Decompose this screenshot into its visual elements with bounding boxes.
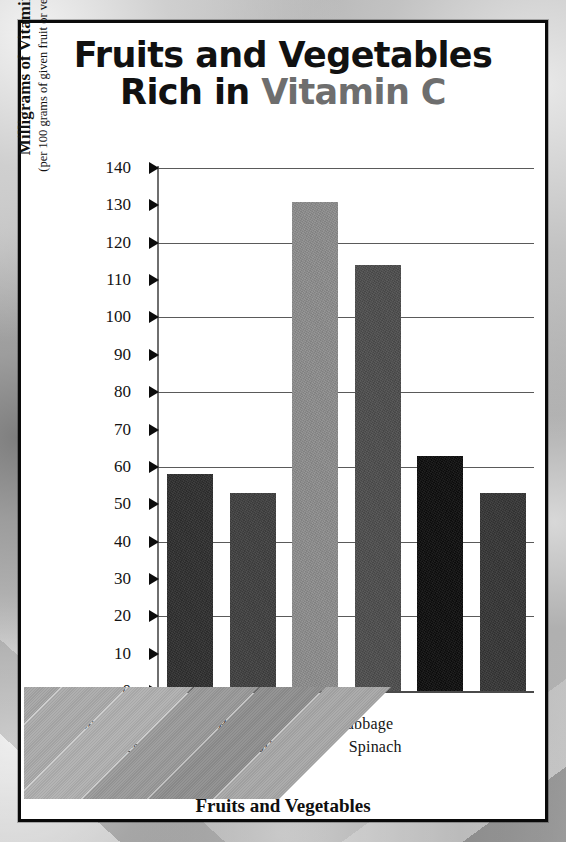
y-tick-arrow-icon	[149, 386, 159, 398]
chart-area: Milligrams of Vitamin C (per 100 grams o…	[21, 23, 545, 819]
plot-region: 1401301201101009080706050403020100	[139, 166, 534, 693]
y-tick-arrow-icon	[149, 573, 159, 585]
bar-fill	[417, 456, 463, 691]
y-tick-label: 80	[114, 382, 131, 402]
y-tick-label: 90	[114, 345, 131, 365]
y-tick-arrow-icon	[149, 424, 159, 436]
bar-fill	[230, 493, 276, 691]
bar-broccoli[interactable]	[355, 265, 401, 691]
y-axis-title: Milligrams of Vitamin C (per 100 grams o…	[15, 0, 51, 245]
y-axis-title-sub: (per 100 grams of given fruit or vegetab…	[36, 0, 51, 245]
bar-fill	[167, 474, 213, 691]
y-tick-arrow-icon	[149, 536, 159, 548]
y-tick-label: 40	[114, 532, 131, 552]
y-tick-arrow-icon	[149, 461, 159, 473]
y-tick-label: 50	[114, 494, 131, 514]
y-tick-arrow-icon	[149, 162, 159, 174]
y-tick-label: 30	[114, 569, 131, 589]
bar-fill	[480, 493, 526, 691]
y-tick-arrow-icon	[149, 274, 159, 286]
y-tick-label: 70	[114, 420, 131, 440]
bar-spinach[interactable]	[480, 493, 526, 691]
y-tick-arrow-icon	[149, 199, 159, 211]
chart-card: Fruits and Vegetables Rich in Vitamin C …	[18, 20, 548, 822]
y-tick-arrow-icon	[149, 349, 159, 361]
y-tick-label: 100	[106, 307, 132, 327]
y-tick-arrow-icon	[149, 610, 159, 622]
x-axis-category-labels: StrawberriesOrangesGreen PeppersBroccoli…	[24, 687, 548, 799]
bar-green-peppers[interactable]	[292, 202, 338, 691]
bar-series	[159, 166, 534, 691]
x-tick-label-spinach: Spinach	[349, 738, 402, 756]
poster: Fruits and Vegetables Rich in Vitamin C …	[0, 0, 566, 842]
y-tick-label: 10	[114, 644, 131, 664]
y-tick-label: 110	[106, 270, 131, 290]
y-tick-label: 20	[114, 606, 131, 626]
bar-fill	[355, 265, 401, 691]
y-tick-arrow-icon	[149, 311, 159, 323]
bar-fill	[292, 202, 338, 691]
y-tick-arrow-icon	[149, 648, 159, 660]
y-tick-label: 60	[114, 457, 131, 477]
x-axis-title: Fruits and Vegetables	[21, 795, 545, 817]
bar-strawberries[interactable]	[167, 474, 213, 691]
y-tick-label: 130	[106, 195, 132, 215]
y-tick-label: 120	[106, 233, 132, 253]
bar-oranges[interactable]	[230, 493, 276, 691]
y-axis-title-main: Milligrams of Vitamin C	[15, 0, 35, 245]
y-tick-arrow-icon	[149, 237, 159, 249]
y-tick-arrow-icon	[149, 498, 159, 510]
y-tick-label: 140	[106, 158, 132, 178]
bar-red-cabbage[interactable]	[417, 456, 463, 691]
